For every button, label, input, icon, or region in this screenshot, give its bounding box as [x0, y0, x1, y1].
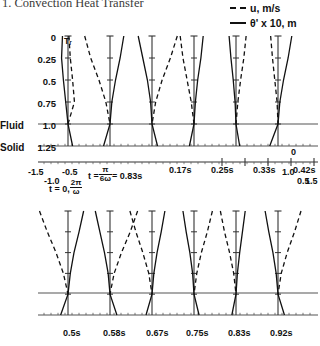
legend: u, m/s θ' x 10, m [230, 1, 320, 31]
scale-tick-neg05: -0.5 [62, 167, 78, 177]
region-label-solid: Solid [0, 142, 24, 153]
time-label-033s: 0.33s [253, 165, 276, 175]
legend-velocity-label: u, m/s [250, 2, 280, 14]
time-label-083s: 0.83s [228, 328, 251, 338]
page-title: 1. Convection Heat Transfer [2, 0, 232, 12]
time-label-t1: t = π 6ω = 0.83s [88, 167, 142, 184]
fraction-2pi-omega: 2π ω [70, 179, 83, 196]
time-label-042s: 0.42s [293, 165, 316, 175]
figure-root: 1. Convection Heat Transfer u, m/s θ' x … [0, 0, 320, 346]
scale-tick-15: 1.5 [305, 176, 318, 186]
time-label-075s: 0.75s [186, 328, 209, 338]
chart-panel-bottom [0, 205, 320, 325]
legend-temperature: θ' x 10, m [230, 16, 320, 29]
scale-tick-neg15: -1.5 [28, 167, 44, 177]
chart-canvas-bottom [0, 205, 320, 325]
region-label-fluid: Fluid [0, 120, 24, 131]
y-tick-05: 0.5 [18, 76, 56, 87]
dashed-line-icon [230, 2, 246, 13]
y-tick-0: 0 [30, 32, 56, 43]
y-tick-025: 0.25 [18, 54, 56, 65]
time-label-058s: 0.58s [103, 328, 126, 338]
scale-tick-0: 0 [291, 147, 296, 157]
time-label-05s: 0.5s [63, 328, 81, 338]
profile-axis-label: Tᵣ [64, 36, 72, 46]
y-tick-075: 0.75 [18, 98, 56, 109]
time-label-t0: t = 0, 2π ω [49, 180, 82, 197]
fraction-pi-6omega: π 6ω [99, 166, 112, 183]
legend-temperature-label: θ' x 10, m [250, 17, 297, 29]
time-label-025s: 0.25s [211, 165, 234, 175]
time-label-067s: 0.67s [146, 328, 169, 338]
chart-panel-top [0, 30, 320, 160]
legend-velocity: u, m/s [230, 1, 320, 14]
time-label-092s: 0.92s [270, 328, 293, 338]
time-label-017s: 0.17s [169, 165, 192, 175]
solid-line-icon [230, 17, 246, 28]
chart-canvas-top [0, 30, 320, 160]
